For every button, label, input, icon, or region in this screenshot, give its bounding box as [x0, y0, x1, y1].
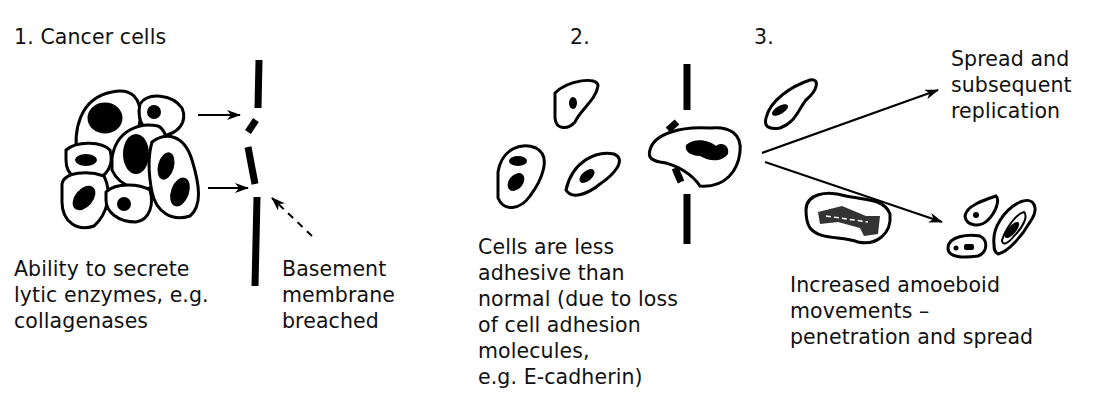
step-2-caption-line: e.g. E-cadherin)	[478, 364, 643, 390]
step-1-caption-line: lytic enzymes, e.g.	[14, 282, 209, 308]
step-1-caption-line: Ability to secrete	[14, 256, 190, 282]
step-2-caption-line: molecules,	[478, 338, 590, 364]
step-3-caption-line: movements –	[790, 298, 929, 324]
migrating-cell-upper	[766, 80, 817, 129]
spread-caption-line: subsequent	[951, 72, 1072, 98]
membrane-caption-line: breached	[282, 308, 379, 334]
cancer-cell-cluster	[62, 91, 199, 228]
step-2-caption-line: of cell adhesion	[478, 312, 641, 338]
spread-caption-line: replication	[951, 98, 1060, 124]
spread-cells-cluster	[948, 196, 1035, 257]
basement-membrane-1	[248, 60, 259, 286]
detached-cells	[498, 80, 619, 207]
step-2-caption-line: Cells are less	[478, 234, 614, 260]
step-3-caption-line: penetration and spread	[790, 324, 1033, 350]
step-3-caption-line: Increased amoeboid	[790, 272, 1000, 298]
step-3-label: 3.	[754, 24, 774, 50]
spread-caption-line: Spread and	[951, 46, 1069, 72]
membrane-caption-line: membrane	[282, 282, 395, 308]
step-2-label: 2.	[570, 24, 590, 50]
step-1-label: 1. Cancer cells	[14, 24, 166, 50]
step-1-caption-line: collagenases	[14, 308, 148, 334]
step-2-caption-line: adhesive than	[478, 260, 625, 286]
cell-crossing-membrane	[649, 128, 740, 186]
step-2-caption-line: normal (due to loss	[478, 286, 678, 312]
breach-pointer-arrow	[272, 198, 312, 236]
amoeboid-cell	[806, 193, 890, 242]
membrane-caption-line: Basement	[282, 256, 386, 282]
